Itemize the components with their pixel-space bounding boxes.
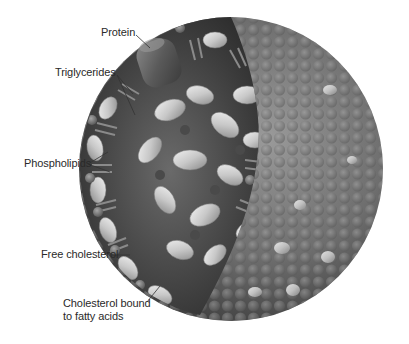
label-protein: Protein xyxy=(101,26,135,39)
lipoprotein-diagram: Protein Triglycerides Phospholipids Free… xyxy=(0,0,409,344)
label-free-cholesterol: Free cholesterol xyxy=(41,248,118,261)
label-cholesterol-bound-line2: to fatty acids xyxy=(63,310,123,323)
label-phospholipids: Phospholipids xyxy=(24,157,91,170)
label-triglycerides: Triglycerides xyxy=(55,66,116,79)
lipoprotein-illustration xyxy=(0,0,409,344)
label-cholesterol-bound-line1: Cholesterol bound xyxy=(63,297,151,310)
